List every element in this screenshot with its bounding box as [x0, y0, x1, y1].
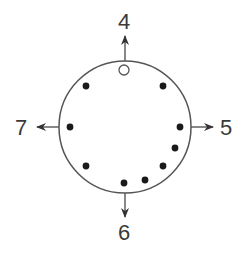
filled-dot — [142, 177, 149, 184]
filled-dot — [160, 163, 167, 170]
filled-dot — [67, 124, 74, 131]
label-right-5: 5 — [220, 117, 232, 139]
label-left-7: 7 — [15, 117, 27, 139]
filled-dot — [121, 180, 128, 187]
label-top-4: 4 — [118, 11, 130, 33]
filled-dots-group — [67, 83, 184, 187]
circular-diagram: 4 5 6 7 — [0, 0, 252, 256]
arrows-group — [37, 36, 213, 217]
filled-dot — [160, 83, 167, 90]
main-circle — [59, 61, 191, 193]
filled-dot — [83, 83, 90, 90]
open-circle-marker — [119, 65, 129, 75]
diagram-canvas — [0, 0, 252, 256]
filled-dot — [83, 163, 90, 170]
filled-dot — [172, 145, 179, 152]
filled-dot — [177, 124, 184, 131]
label-bottom-6: 6 — [118, 222, 130, 244]
